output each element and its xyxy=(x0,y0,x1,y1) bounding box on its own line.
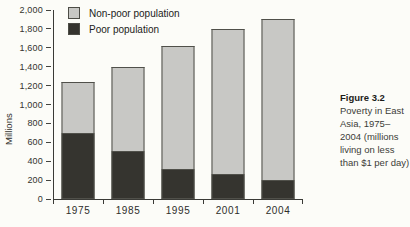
poor-swatch-icon xyxy=(68,23,80,35)
y-tick: 800 xyxy=(27,118,51,128)
y-tick-mark xyxy=(46,199,51,200)
legend-label-nonpoor: Non-poor population xyxy=(89,8,180,19)
y-tick: 1,400 xyxy=(19,62,51,72)
y-tick-label: 1,400 xyxy=(19,62,43,72)
legend-label-poor: Poor population xyxy=(89,24,159,35)
x-tick-mark xyxy=(302,199,303,204)
x-label-1985: 1985 xyxy=(103,205,153,216)
y-tick-label: 1,800 xyxy=(19,24,43,34)
poor-segment-1985 xyxy=(112,151,145,199)
x-label-2001: 2001 xyxy=(203,205,253,216)
y-tick-mark xyxy=(46,47,51,48)
x-tick-mark xyxy=(153,199,154,204)
legend-item-poor: Poor population xyxy=(68,23,180,35)
x-axis-labels: 19751985199520012004 xyxy=(53,205,303,216)
poor-segment-1975 xyxy=(62,133,95,199)
nonpoor-segment-2004 xyxy=(262,19,295,181)
y-tick-label: 1,600 xyxy=(19,43,43,53)
x-tick-mark xyxy=(53,199,54,204)
y-tick-label: 2,000 xyxy=(19,5,43,15)
y-tick-mark xyxy=(46,85,51,86)
y-tick: 400 xyxy=(27,156,51,166)
y-tick-label: 1,200 xyxy=(19,81,43,91)
y-tick-label: 400 xyxy=(27,156,43,166)
y-tick: 0 xyxy=(38,194,51,204)
y-tick-mark xyxy=(46,180,51,181)
x-tick-mark xyxy=(203,199,204,204)
y-tick-mark xyxy=(46,28,51,29)
x-label-1975: 1975 xyxy=(53,205,103,216)
bar-1985 xyxy=(103,10,153,199)
y-tick-label: 800 xyxy=(27,118,43,128)
y-tick: 200 xyxy=(27,175,51,185)
bar-1975 xyxy=(53,10,103,199)
poor-segment-2001 xyxy=(212,174,245,200)
y-tick-mark xyxy=(46,104,51,105)
y-tick-mark xyxy=(46,10,51,11)
caption-label: Figure 3.2 xyxy=(340,92,385,103)
nonpoor-swatch-icon xyxy=(68,7,80,19)
y-tick: 1,800 xyxy=(19,24,51,34)
y-tick: 1,200 xyxy=(19,81,51,91)
y-tick: 600 xyxy=(27,137,51,147)
plot-area: Non-poor population Poor population xyxy=(53,10,303,199)
nonpoor-segment-1975 xyxy=(62,82,95,133)
y-tick-label: 1,000 xyxy=(19,100,43,110)
y-axis: 2,0001,8001,6001,4001,2001,0008006004002… xyxy=(0,10,52,199)
bar-2004 xyxy=(253,10,303,199)
poor-segment-2004 xyxy=(262,180,295,199)
caption-text: Poverty in East Asia, 1975–2004 (million… xyxy=(340,105,409,168)
x-label-1995: 1995 xyxy=(153,205,203,216)
nonpoor-segment-1985 xyxy=(112,67,145,151)
bar-1995 xyxy=(153,10,203,199)
figure-panel: Millions 2,0001,8001,6001,4001,2001,0008… xyxy=(0,0,410,227)
x-axis-line xyxy=(53,199,303,200)
y-tick: 2,000 xyxy=(19,5,51,15)
y-tick-mark xyxy=(46,66,51,67)
y-tick-mark xyxy=(46,142,51,143)
nonpoor-segment-2001 xyxy=(212,29,245,174)
nonpoor-segment-1995 xyxy=(162,46,195,169)
y-tick-label: 200 xyxy=(27,175,43,185)
poor-segment-1995 xyxy=(162,169,195,199)
x-tick-mark xyxy=(103,199,104,204)
y-tick-label: 600 xyxy=(27,137,43,147)
y-tick-mark xyxy=(46,123,51,124)
figure-caption: Figure 3.2 Poverty in East Asia, 1975–20… xyxy=(340,91,410,169)
y-tick-label: 0 xyxy=(38,194,43,204)
y-tick-mark xyxy=(46,161,51,162)
x-tick-mark xyxy=(253,199,254,204)
y-tick: 1,600 xyxy=(19,43,51,53)
y-tick: 1,000 xyxy=(19,100,51,110)
x-label-2004: 2004 xyxy=(253,205,303,216)
bar-2001 xyxy=(203,10,253,199)
legend-item-nonpoor: Non-poor population xyxy=(68,7,180,19)
legend: Non-poor population Poor population xyxy=(68,7,180,35)
